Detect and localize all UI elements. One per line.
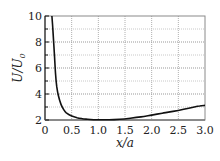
y-axis-label: U/U0 [11, 53, 27, 82]
x-tick-label: 2.5 [170, 124, 188, 137]
x-tick-label: 3.0 [196, 124, 214, 137]
x-tick-label: 0.5 [63, 124, 81, 137]
x-tick-label: 1.0 [90, 124, 108, 137]
y-tick-labels: 246810 [28, 10, 49, 127]
x-tick-label: 0 [42, 124, 49, 137]
x-tick-label: 2.0 [143, 124, 161, 137]
y-tick-label: 8 [35, 36, 42, 49]
grid-lines [45, 16, 205, 120]
y-tick-label: 4 [35, 88, 42, 101]
y-tick-label: 10 [28, 10, 42, 23]
data-line [52, 16, 205, 120]
y-tick-label: 6 [35, 62, 42, 75]
line-chart: 246810 00.51.01.52.02.53.0 x/a U/U0 [0, 0, 220, 161]
svg-text:U/U0: U/U0 [11, 53, 27, 82]
x-axis-label: x/a [116, 136, 134, 150]
